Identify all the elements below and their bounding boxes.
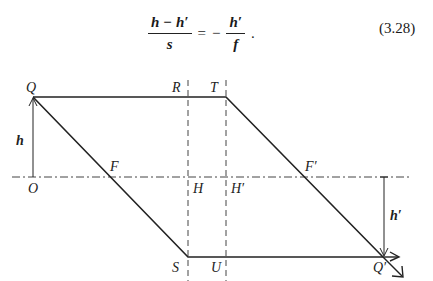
label-Q-prime: Q′ (373, 260, 387, 275)
label-U: U (211, 260, 222, 275)
label-R: R (171, 80, 181, 95)
label-O: O (28, 181, 38, 196)
label-H: H (192, 181, 204, 196)
label-T: T (210, 80, 219, 95)
lens-ray-diagram: Q R T h O F H H′ F′ h′ S U Q′ (0, 0, 433, 281)
label-h: h (16, 133, 24, 148)
label-S: S (172, 260, 179, 275)
label-F-prime: F′ (304, 159, 318, 174)
label-F: F (109, 159, 119, 174)
label-h-prime: h′ (390, 208, 402, 223)
label-Q: Q (26, 80, 36, 95)
label-H-prime: H′ (230, 181, 245, 196)
